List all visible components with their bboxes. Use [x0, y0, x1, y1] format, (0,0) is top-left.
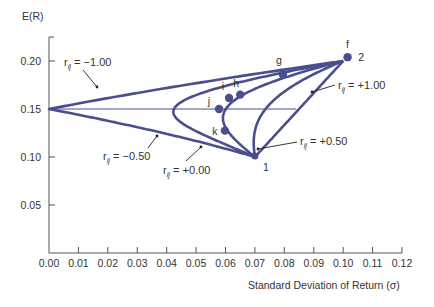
x-tick-label: 0.07	[245, 257, 266, 269]
x-tick-label: 0.05	[186, 257, 207, 269]
annotation-arrow	[148, 136, 157, 148]
annotation-arrowhead	[257, 148, 260, 151]
correlation-label: rij = −0.50	[103, 150, 150, 165]
annotations: rij = +1.00rij = +0.50rij = +0.00rij = −…	[64, 56, 385, 179]
correlation-label: rij = −1.00	[64, 56, 111, 71]
x-axis-label: Standard Deviation of Return (σ)	[248, 279, 400, 291]
x-tick-label: 0.04	[156, 257, 177, 269]
x-tick-label: 0.10	[333, 257, 354, 269]
x-tick-label: 0.09	[304, 257, 325, 269]
point-label-i: i	[222, 80, 224, 92]
x-tick-label: 0.02	[98, 257, 119, 269]
correlation-label: rij = +0.00	[163, 164, 210, 179]
point-j	[215, 105, 223, 113]
annotation-arrowhead	[311, 91, 314, 94]
point-f	[343, 53, 351, 61]
annotation-arrow	[83, 70, 97, 87]
y-tick-label: 0.20	[21, 55, 42, 67]
y-tick-label: 0.10	[21, 151, 42, 163]
annotation-arrowhead	[156, 135, 159, 138]
point-label-j: j	[207, 95, 210, 107]
efficient-frontier-chart: 0.000.010.020.030.040.050.060.070.080.09…	[0, 0, 434, 307]
y-ticks: 0.050.100.150.20	[21, 55, 55, 211]
x-ticks: 0.000.010.020.030.040.050.060.070.080.09…	[39, 247, 413, 269]
point-label-g: g	[276, 54, 282, 66]
x-tick-label: 0.03	[127, 257, 148, 269]
asset-1-point	[251, 153, 258, 160]
x-tick-label: 0.01	[68, 257, 89, 269]
x-tick-label: 0.08	[274, 257, 295, 269]
correlation-label: rij = +1.00	[338, 79, 385, 94]
x-tick-label: 0.11	[363, 257, 383, 269]
x-tick-label: 0.06	[215, 257, 236, 269]
y-tick-label: 0.15	[21, 103, 42, 115]
asset-label-1: 1	[263, 161, 269, 173]
point-label-f: f	[346, 38, 349, 50]
point-i	[225, 94, 233, 102]
annotation-arrow	[186, 147, 201, 161]
point-h	[236, 90, 244, 98]
annotation-arrowhead	[96, 86, 99, 89]
x-tick-label: 0.12	[392, 257, 413, 269]
asset-label-2: 2	[358, 51, 364, 63]
annotation-arrow	[312, 85, 335, 92]
point-label-k: k	[212, 125, 218, 137]
correlation-label: rij = +0.50	[300, 135, 347, 150]
points: fghijk12	[207, 38, 364, 173]
y-axis-label: E(R)	[22, 10, 44, 22]
x-tick-label: 0.00	[39, 257, 60, 269]
point-label-h: h	[233, 77, 239, 89]
y-tick-label: 0.05	[21, 199, 42, 211]
point-k	[221, 126, 229, 134]
annotation-arrowhead	[200, 146, 203, 149]
point-g	[279, 70, 287, 78]
